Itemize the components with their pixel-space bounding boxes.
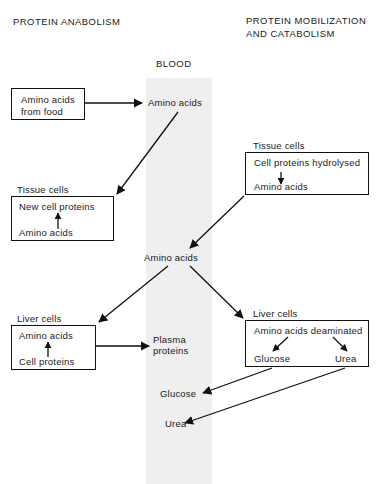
blood-glucose: Glucose xyxy=(160,388,196,399)
blood-urea: Urea xyxy=(165,418,186,429)
box-tissue-cells-left: New cell proteins Amino acids xyxy=(11,196,114,241)
header-protein-mobilization-catabolism: PROTEIN MOBILIZATION AND CATABOLISM xyxy=(246,14,366,40)
header-protein-anabolism: PROTEIN ANABOLISM xyxy=(13,15,120,28)
box-amino-acids-from-food-line2: from food xyxy=(21,106,63,117)
box-tissue-cells-right-cell-proteins-hydrolysed: Cell proteins hydrolysed xyxy=(254,157,360,168)
connector-layer xyxy=(0,0,385,484)
label-tissue-cells-left: Tissue cells xyxy=(17,184,69,195)
box-liver-cells-left-cell-proteins: Cell proteins xyxy=(19,356,74,367)
box-liver-cells-left-amino-acids: Amino acids xyxy=(19,330,73,341)
arrow-tissue-right-to-blood xyxy=(190,196,244,248)
label-tissue-cells-right: Tissue cells xyxy=(253,140,305,151)
diagram-canvas: PROTEIN ANABOLISM PROTEIN MOBILIZATION A… xyxy=(0,0,385,484)
label-liver-cells-left: Liver cells xyxy=(17,313,61,324)
box-liver-cells-right-amino-acids-deaminated: Amino acids deaminated xyxy=(254,325,362,336)
arrow-urea-to-blood xyxy=(185,368,345,423)
label-blood: BLOOD xyxy=(156,57,192,70)
arrow-blood-to-tissue-left xyxy=(117,112,178,194)
arrow-blood-to-liver-left xyxy=(99,266,168,322)
arrow-blood-to-liver-right xyxy=(190,266,243,318)
box-tissue-cells-left-amino-acids: Amino acids xyxy=(19,227,73,238)
arrow-glucose-to-blood xyxy=(203,368,272,393)
blood-amino-acids-top: Amino acids xyxy=(148,97,202,108)
box-liver-cells-right-urea: Urea xyxy=(335,353,356,364)
blood-plasma-proteins: Plasma proteins xyxy=(153,334,188,356)
box-tissue-cells-right: Cell proteins hydrolysed Amino acids xyxy=(245,152,369,195)
box-amino-acids-from-food: Amino acids from food xyxy=(11,88,85,120)
box-liver-cells-right: Amino acids deaminated Glucose Urea xyxy=(245,320,369,367)
blood-amino-acids-mid: Amino acids xyxy=(144,252,198,263)
box-liver-cells-right-glucose: Glucose xyxy=(254,353,290,364)
box-amino-acids-from-food-line1: Amino acids xyxy=(21,94,75,105)
box-tissue-cells-left-new-cell-proteins: New cell proteins xyxy=(19,201,95,212)
box-liver-cells-left: Amino acids Cell proteins xyxy=(11,325,96,370)
box-tissue-cells-right-amino-acids: Amino acids xyxy=(254,181,308,192)
label-liver-cells-right: Liver cells xyxy=(253,308,297,319)
